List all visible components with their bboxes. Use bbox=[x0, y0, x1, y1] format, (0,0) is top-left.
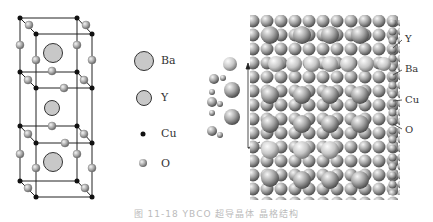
legend-y-label: Y bbox=[161, 91, 168, 104]
legend-ba-icon bbox=[133, 50, 155, 72]
figure-caption: 图 11-18 YBCO 超导晶体 晶格结构 bbox=[0, 207, 433, 220]
lattice-diagram bbox=[190, 0, 433, 200]
legend-cu-icon bbox=[139, 130, 147, 138]
lattice-label-cu: Cu bbox=[405, 94, 419, 105]
legend-o-label: O bbox=[161, 157, 170, 170]
legend-cu-label: Cu bbox=[161, 127, 177, 140]
lattice-label-o: O bbox=[405, 124, 413, 135]
unit-cell-diagram bbox=[0, 0, 120, 200]
legend-o-icon bbox=[138, 158, 148, 168]
legend-ba-label: Ba bbox=[161, 54, 176, 67]
legend-y-icon bbox=[135, 89, 153, 107]
lattice-label-y: Y bbox=[405, 33, 412, 44]
lattice-label-ba: Ba bbox=[405, 63, 418, 74]
